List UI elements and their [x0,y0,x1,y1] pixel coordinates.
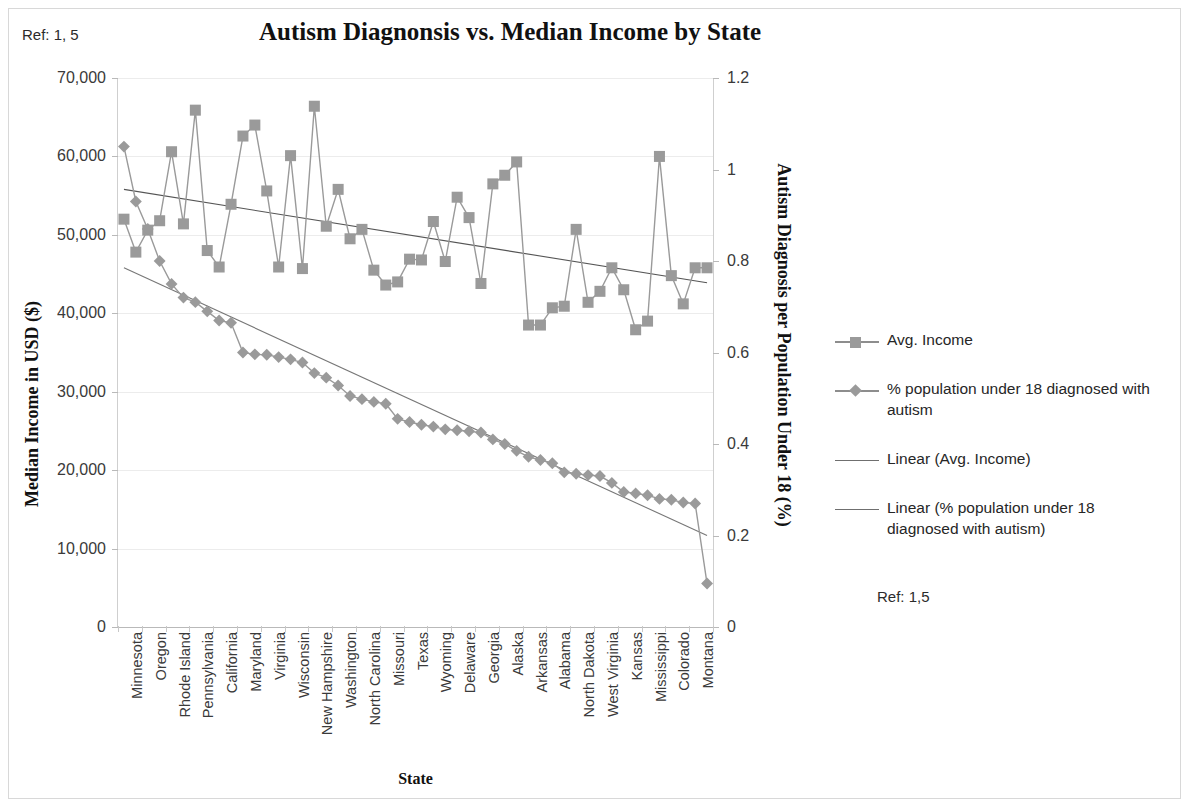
x-tick-label: Rhode Island [177,632,193,717]
y-tick-label-right: 0.6 [727,344,749,362]
x-tick-label: Maryland [248,632,264,692]
data-point-marker [166,146,177,157]
data-point-marker [285,353,297,365]
data-point-marker [249,120,260,131]
data-point-marker [618,486,630,498]
y-tick-label-right: 1.2 [727,69,749,87]
legend-item[interactable]: Avg. Income [835,330,1165,351]
legend-key-icon [835,386,879,396]
x-tick-label: North Dakota [581,632,597,717]
data-point-marker [701,578,713,590]
data-point-marker [178,218,189,229]
data-point-marker [273,262,284,273]
data-point-marker [702,262,713,273]
y-tick-label-right: 1 [727,161,736,179]
y-tick-mark-right [713,444,719,445]
data-point-marker [189,296,201,308]
ref-note-legend: Ref: 1,5 [877,588,930,605]
data-point-marker [368,396,380,408]
data-point-marker [345,233,356,244]
data-point-marker [226,199,237,210]
y-tick-label-left: 20,000 [57,461,106,479]
y-axis-title-left: Median Income in USD ($) [22,301,43,507]
data-point-marker [440,256,451,267]
x-tick-label: Missouri [391,632,407,686]
legend-item[interactable]: Linear (Avg. Income) [835,449,1165,470]
x-tick-mark [380,626,381,632]
data-point-marker [154,255,166,267]
data-point-marker [654,151,665,162]
data-point-marker [571,224,582,235]
x-tick-mark [451,626,452,632]
x-tick-label: New Hampshire [319,632,335,735]
y-axis-title-right: Autism Diagnosis per Population Under 18… [773,163,794,526]
data-point-marker [428,216,439,227]
data-point-marker [487,178,498,189]
data-point-marker [594,470,606,482]
data-point-marker [677,497,689,509]
data-point-marker [452,192,463,203]
data-point-marker [666,270,677,281]
data-point-marker [320,372,332,384]
trendline [124,268,707,536]
data-point-marker [606,262,617,273]
data-point-marker [630,324,641,335]
data-point-marker [630,487,642,499]
data-point-marker [606,477,618,489]
legend-item[interactable]: % population under 18 diagnosed with aut… [835,379,1165,421]
x-tick-label: Washington [343,632,359,708]
series-line [124,147,707,584]
data-point-marker [321,221,332,232]
data-point-marker [583,297,594,308]
x-tick-label: Montana [700,632,716,688]
trendline [124,189,707,282]
data-point-marker [130,196,142,208]
x-tick-mark [570,626,571,632]
data-point-marker [261,185,272,196]
data-point-marker [642,489,654,501]
x-tick-label: Alaska [510,632,526,676]
data-point-marker [202,245,213,256]
data-point-marker [451,424,463,436]
data-point-marker [416,254,427,265]
data-point-marker [130,247,141,258]
x-tick-mark [546,626,547,632]
y-tick-label-right: 0.2 [727,527,749,545]
data-point-marker [464,212,475,223]
x-tick-mark [308,626,309,632]
y-tick-label-right: 0.4 [727,435,749,453]
legend-key-icon [835,505,879,515]
x-tick-label: Mississippi [653,632,669,702]
data-point-marker [404,416,416,428]
x-tick-mark [499,626,500,632]
data-point-marker [356,224,367,235]
data-point-marker [535,320,546,331]
x-tick-mark [642,626,643,632]
data-point-marker [249,348,261,360]
data-point-marker [309,101,320,112]
y-tick-label-left: 60,000 [57,147,106,165]
x-tick-label: Wisconsin [296,632,312,698]
x-tick-label: California [224,632,240,693]
y-tick-label-right: 0.8 [727,252,749,270]
y-tick-mark-right [713,261,719,262]
chart-legend: Avg. Income% population under 18 diagnos… [835,330,1165,568]
data-point-marker [368,265,379,276]
data-point-marker [404,254,415,265]
x-tick-label: Delaware [462,632,478,693]
data-point-marker [535,454,547,466]
data-point-marker [118,141,130,153]
legend-label: Avg. Income [887,331,973,348]
data-point-marker [475,278,486,289]
x-tick-mark [213,626,214,632]
x-tick-label: Virginia [272,632,288,680]
legend-item[interactable]: Linear (% population under 18 diagnosed … [835,498,1165,540]
x-tick-mark [356,626,357,632]
x-axis-tick-labels: MinnesotaOregonRhode IslandPennsylvaniaC… [118,632,713,752]
x-tick-label: Oregon [153,632,169,680]
data-point-marker [427,421,439,433]
legend-label: Linear (Avg. Income) [887,450,1031,467]
data-point-marker [654,493,666,505]
series-line [124,106,707,330]
legend-key-icon [835,337,879,347]
